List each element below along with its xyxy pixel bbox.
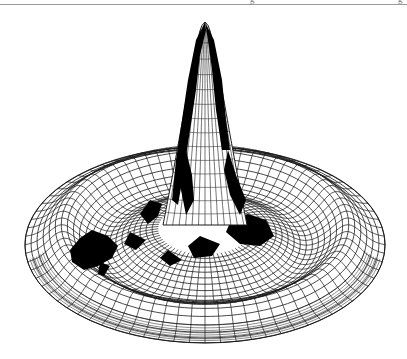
sombrero-surface-figure [0,0,407,359]
central-peak [163,22,247,225]
